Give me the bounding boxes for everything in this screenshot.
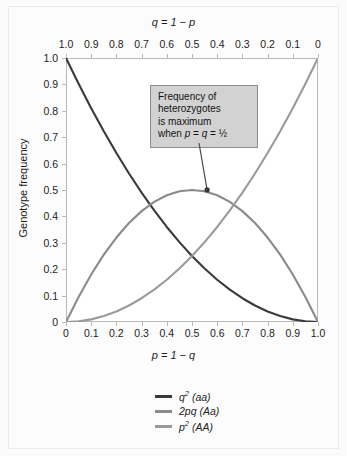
legend-color-swatch [155,410,172,413]
x-axis-tick-label-bottom: 1.0 [311,327,326,339]
x-axis-tick-label-top: 0.5 [185,38,200,50]
axis-tick-mark [116,322,117,326]
legend-item: p2 (AA) [155,419,295,433]
y-axis-tick-label: 0.3 [28,237,58,249]
top-axis-title-text: q = 1 − p [152,16,195,28]
x-axis-tick-label-top: 0.3 [235,38,250,50]
axis-tick-mark [318,54,319,58]
x-axis-tick-label-top: 1.0 [59,38,74,50]
axis-tick-mark [217,322,218,326]
bottom-axis-title: p = 1 − q [0,349,347,361]
y-axis-tick-label: 0.7 [28,131,58,143]
x-axis-tick-label-top: 0.9 [84,38,99,50]
x-axis-tick-label-bottom: 0 [63,327,69,339]
legend-color-swatch [155,395,172,398]
axis-tick-mark [167,322,168,326]
legend-label: p2 (AA) [179,419,213,433]
x-axis-tick-label-top: 0.2 [260,38,275,50]
callout-eq2: = [207,128,218,139]
x-axis-tick-label-bottom: 0.3 [134,327,149,339]
axis-tick-mark [142,322,143,326]
x-axis-tick-label-top: 0.6 [159,38,174,50]
y-axis-tick-label: 0.4 [28,210,58,222]
legend-item: 2pq (Aa) [155,404,295,418]
callout-line-3: is maximum [158,116,251,128]
y-axis-tick-label: 0.1 [28,290,58,302]
callout-line-2: heterozygotes [158,103,251,115]
x-axis-tick-label-top: 0.1 [285,38,300,50]
x-axis-tick-label-bottom: 0.7 [235,327,250,339]
callout-half: ½ [219,128,227,139]
x-axis-tick-label-top: 0.8 [109,38,124,50]
callout-line-4: when p = q = ½ [158,128,251,140]
figure-container: q = 1 − p p = 1 − q Genotype frequency 0… [0,0,347,456]
axis-tick-mark [318,322,319,326]
y-axis-tick-label: 0.6 [28,158,58,170]
legend-item: q2 (aa) [155,389,295,403]
x-axis-tick-label-bottom: 0.2 [109,327,124,339]
axis-tick-mark [62,322,66,323]
x-axis-tick-label-top: 0.7 [134,38,149,50]
legend-label: q2 (aa) [179,389,211,403]
legend-color-swatch [155,425,172,428]
axis-tick-mark [242,322,243,326]
x-axis-tick-label-bottom: 0.1 [84,327,99,339]
x-axis-tick-label-bottom: 0.5 [185,327,200,339]
axis-tick-mark [192,322,193,326]
callout-when: when [158,128,185,139]
y-axis-tick-label: 0.5 [28,184,58,196]
y-axis-tick-label: 0.2 [28,263,58,275]
axis-tick-mark [293,322,294,326]
y-axis-tick-label: 0.9 [28,78,58,90]
callout-eq1: = [190,128,201,139]
top-axis-title: q = 1 − p [0,16,347,28]
x-axis-tick-label-bottom: 0.8 [260,327,275,339]
x-axis-tick-label-bottom: 0.9 [285,327,300,339]
legend: q2 (aa)2pq (Aa)p2 (AA) [155,389,295,434]
x-axis-tick-label-top: 0.4 [210,38,225,50]
axis-tick-mark [268,322,269,326]
x-axis-tick-label-bottom: 0.6 [210,327,225,339]
axis-tick-mark [66,322,67,326]
bottom-axis-title-text: p = 1 − q [152,349,195,361]
y-axis-tick-label: 1.0 [28,52,58,64]
axis-tick-mark [91,322,92,326]
callout-line-1: Frequency of [158,91,251,103]
x-axis-tick-label-bottom: 0.4 [159,327,174,339]
y-axis-tick-label: 0.8 [28,105,58,117]
legend-label: 2pq (Aa) [179,405,219,417]
y-axis-tick-label: 0 [28,316,58,328]
x-axis-tick-label-top: 0 [315,38,321,50]
annotation-callout: Frequency of heterozygotes is maximum wh… [150,85,258,148]
